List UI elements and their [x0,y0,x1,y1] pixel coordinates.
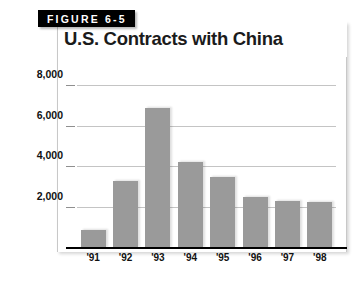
y-axis-tick [66,166,75,167]
bar-slot [271,78,303,248]
x-axis-line [66,247,347,249]
x-axis-tick-label: '92 [109,252,141,263]
x-axis-tick-label: '96 [239,252,271,263]
bar-slot [174,78,206,248]
bar-92 [113,181,138,248]
y-axis-tick-label: 6,000 [37,109,63,121]
y-axis-tick [66,126,75,127]
bar-slot [109,78,141,248]
y-axis-tick-label: 8,000 [37,68,63,80]
x-axis-tick-label: '95 [207,252,239,263]
bar-slot [77,78,109,248]
bar-95 [210,177,235,248]
x-axis-tick-label: '93 [142,252,174,263]
x-axis-tick-label: '98 [304,252,336,263]
figure-label-banner: FIGURE 6-5 [38,10,135,27]
bar-93 [145,108,170,248]
plot-area: 2,0004,0006,0008,000 [77,78,336,248]
y-axis-tick [66,207,75,208]
x-axis-labels: '91'92'93'94'95'96'97'98 [77,252,336,263]
x-axis-tick-label: '94 [174,252,206,263]
bars-group [77,78,336,248]
bar-98 [307,202,332,248]
y-axis-tick [66,85,75,86]
bar-slot [207,78,239,248]
bar-slot [239,78,271,248]
bar-97 [275,201,300,248]
bar-94 [178,162,203,248]
bar-slot [142,78,174,248]
y-axis-tick-label: 4,000 [37,149,63,161]
x-axis-tick-label: '91 [77,252,109,263]
y-axis-tick-label: 2,000 [37,190,63,202]
bar-96 [243,197,268,248]
bar-slot [304,78,336,248]
x-axis-tick-label: '97 [271,252,303,263]
bar-91 [81,230,106,248]
chart-title: U.S. Contracts with China [64,28,283,50]
